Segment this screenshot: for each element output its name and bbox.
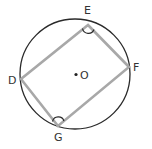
label-center-o: O bbox=[80, 69, 89, 82]
label-d: D bbox=[8, 74, 16, 87]
label-e: E bbox=[84, 4, 91, 17]
label-f: F bbox=[133, 61, 139, 74]
label-g: G bbox=[54, 131, 63, 144]
inscribed-quadrilateral-diagram: O E F G D bbox=[0, 0, 152, 149]
center-point bbox=[74, 73, 77, 76]
